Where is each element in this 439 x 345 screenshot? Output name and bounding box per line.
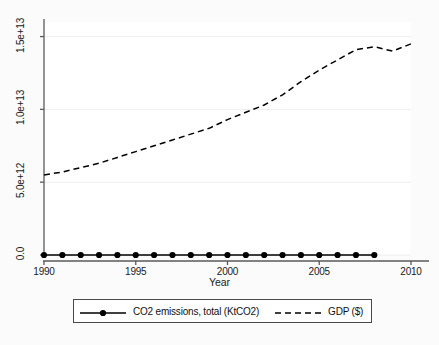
- legend-key-co2-icon: [80, 305, 126, 317]
- legend-label-co2: CO2 emissions, total (KtCO2): [133, 306, 259, 317]
- chart-legend: CO2 emissions, total (KtCO2) GDP ($): [73, 299, 372, 323]
- x-axis-title: Year: [0, 276, 439, 288]
- axis-ticks: [40, 37, 411, 265]
- chart-canvas: [0, 0, 439, 345]
- chart-figure: 0.05.0e+121.0e+131.5e+13 199019952000200…: [0, 0, 439, 345]
- axis-lines: [43, 19, 429, 261]
- legend-key-gdp-icon: [275, 305, 321, 317]
- y-tick-label: 5.0e+12: [15, 161, 26, 201]
- y-tick-label: 1.0e+13: [15, 88, 26, 128]
- legend-entry-co2: CO2 emissions, total (KtCO2): [80, 300, 259, 322]
- gridlines: [44, 37, 411, 255]
- legend-label-gdp: GDP ($): [328, 306, 363, 317]
- y-tick-label: 0.0: [15, 234, 26, 274]
- legend-entry-gdp: GDP ($): [275, 300, 363, 322]
- y-tick-label: 1.5e+13: [15, 15, 26, 55]
